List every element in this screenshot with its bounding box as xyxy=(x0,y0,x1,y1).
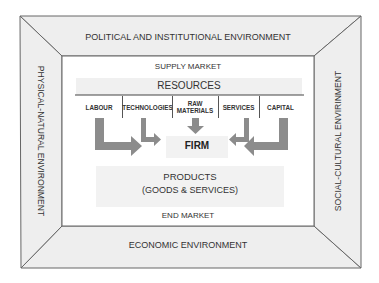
resource-capital-label: CAPITAL xyxy=(267,104,294,111)
resource-raw-materials: RAW MATERIALS xyxy=(172,96,218,118)
resource-technologies: TECHNOLOGIES xyxy=(122,96,173,118)
resource-labour: LABOUR xyxy=(76,96,122,118)
resource-services: SERVICES xyxy=(218,96,259,118)
products-subtitle: (GOODS & SERVICES) xyxy=(96,185,284,195)
resource-technologies-label: TECHNOLOGIES xyxy=(122,104,172,111)
resource-raw-materials-line1: RAW xyxy=(188,100,203,107)
resources-title: RESOURCES xyxy=(76,80,302,91)
political-environment-label: POLITICAL AND INSTITUTIONAL ENVIRONMENT xyxy=(62,32,314,42)
physical-natural-environment-label: PHYSICAL-NATURAL ENVIRONMENT xyxy=(36,66,46,216)
end-market-label: END MARKET xyxy=(62,211,314,220)
products-title: PRODUCTS xyxy=(96,171,284,182)
social-cultural-environment-label: SOCIAL-CULTURAL ENVIRINMENT xyxy=(333,71,343,211)
firm-label: FIRM xyxy=(166,140,228,151)
resource-services-label: SERVICES xyxy=(223,104,255,111)
resource-raw-materials-line2: MATERIALS xyxy=(177,107,213,114)
economic-environment-label: ECONOMIC ENVIRONMENT xyxy=(62,240,314,250)
resource-labour-label: LABOUR xyxy=(86,104,113,111)
resource-capital: CAPITAL xyxy=(259,96,302,118)
supply-market-label: SUPPLY MARKET xyxy=(62,62,314,71)
